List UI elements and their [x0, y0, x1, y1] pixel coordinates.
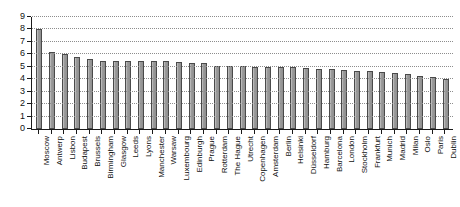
bar	[100, 61, 106, 129]
bar	[278, 67, 284, 129]
x-tick-slot	[235, 129, 248, 135]
bar	[214, 66, 220, 129]
bar-slot	[414, 17, 427, 129]
x-tick-slot	[146, 129, 159, 135]
bar-slot	[427, 17, 440, 129]
x-label-slot: Prague	[197, 136, 210, 207]
x-label-slot: Rotterdam	[210, 136, 223, 207]
bar-slot	[135, 17, 148, 129]
bar-slot	[109, 17, 122, 129]
x-label-slot: Frankfurt	[362, 136, 375, 207]
bar-slot	[71, 17, 84, 129]
plot-area	[31, 17, 453, 130]
x-tick-slot	[439, 129, 452, 135]
x-label-slot: Stockholm	[350, 136, 363, 207]
bar	[303, 68, 309, 129]
x-axis-tick	[76, 129, 77, 134]
x-axis-labels: MoscowAntwerpLisbonBudapestBrusselsBirmi…	[31, 136, 452, 207]
x-tick-slot	[134, 129, 147, 135]
bar	[405, 74, 411, 129]
bar-slot	[84, 17, 97, 129]
x-axis-tick	[203, 129, 204, 134]
bar	[240, 66, 246, 129]
x-tick-slot	[375, 129, 388, 135]
bar-slot	[376, 17, 389, 129]
x-axis-tick	[305, 129, 306, 134]
x-tick-slot	[70, 129, 83, 135]
x-axis-tick	[279, 129, 280, 134]
bar-slot	[185, 17, 198, 129]
x-axis-tick	[190, 129, 191, 134]
x-tick-slot	[32, 129, 45, 135]
bar-slot	[211, 17, 224, 129]
x-tick-slot	[388, 129, 401, 135]
y-tick-label: 5	[1, 61, 25, 72]
bar	[176, 62, 182, 129]
x-tick-slot	[184, 129, 197, 135]
y-axis: 0123456789	[0, 0, 31, 146]
bar-slot	[122, 17, 135, 129]
x-label-slot: Munich	[375, 136, 388, 207]
x-label-slot: Warsaw	[159, 136, 172, 207]
bar	[227, 66, 233, 129]
bar-slot	[224, 17, 237, 129]
x-label-slot: Utrecht	[235, 136, 248, 207]
x-label-slot: Madrid	[388, 136, 401, 207]
x-axis-tick	[394, 129, 395, 134]
x-label-slot: London	[337, 136, 350, 207]
x-label-slot: Paris	[426, 136, 439, 207]
bar	[151, 61, 157, 129]
bar	[367, 71, 373, 129]
x-axis-tick	[165, 129, 166, 134]
bar-slot	[312, 17, 325, 129]
x-tick-slot	[426, 129, 439, 135]
x-label-slot: Budapest	[70, 136, 83, 207]
x-tick-slot	[96, 129, 109, 135]
x-tick-slot	[362, 129, 375, 135]
x-axis-tick	[101, 129, 102, 134]
x-axis-tick	[343, 129, 344, 134]
y-tick-label: 4	[1, 73, 25, 84]
x-axis-tick	[254, 129, 255, 134]
y-tick-label: 7	[1, 36, 25, 47]
gridline	[32, 41, 453, 42]
x-axis-tick	[368, 129, 369, 134]
x-label-slot: Luxembourg	[172, 136, 185, 207]
bar	[201, 63, 207, 129]
bar-slot	[440, 17, 453, 129]
x-label-slot: Milan	[400, 136, 413, 207]
bar-slot	[160, 17, 173, 129]
x-label-slot: Barcelona	[324, 136, 337, 207]
x-label-slot: Dublin	[439, 136, 452, 207]
gridline	[32, 116, 453, 117]
bar-slot	[173, 17, 186, 129]
bar	[379, 72, 385, 129]
y-tick-label: 1	[1, 111, 25, 122]
x-label-slot: Glasgow	[108, 136, 121, 207]
x-axis-tick	[152, 129, 153, 134]
x-label-slot: Lisbon	[57, 136, 70, 207]
x-tick-slot	[273, 129, 286, 135]
x-axis-tick	[51, 129, 52, 134]
bar	[354, 71, 360, 129]
x-tick-slot	[159, 129, 172, 135]
bar-slot	[249, 17, 262, 129]
x-tick-slot	[413, 129, 426, 135]
bar	[252, 67, 258, 129]
x-axis-tick	[89, 129, 90, 134]
bar-series	[32, 17, 453, 129]
y-tick-label: 2	[1, 98, 25, 109]
bar-slot	[389, 17, 402, 129]
x-axis-tick	[216, 129, 217, 134]
y-tick-label: 6	[1, 48, 25, 59]
x-axis-tick	[432, 129, 433, 134]
bar-slot	[262, 17, 275, 129]
x-tick-slot	[121, 129, 134, 135]
x-label-slot: Brussels	[83, 136, 96, 207]
gridline	[32, 53, 453, 54]
bar-slot	[46, 17, 59, 129]
x-axis-tick	[114, 129, 115, 134]
bar	[265, 67, 271, 129]
bar-slot	[274, 17, 287, 129]
x-tick-slot	[210, 129, 223, 135]
